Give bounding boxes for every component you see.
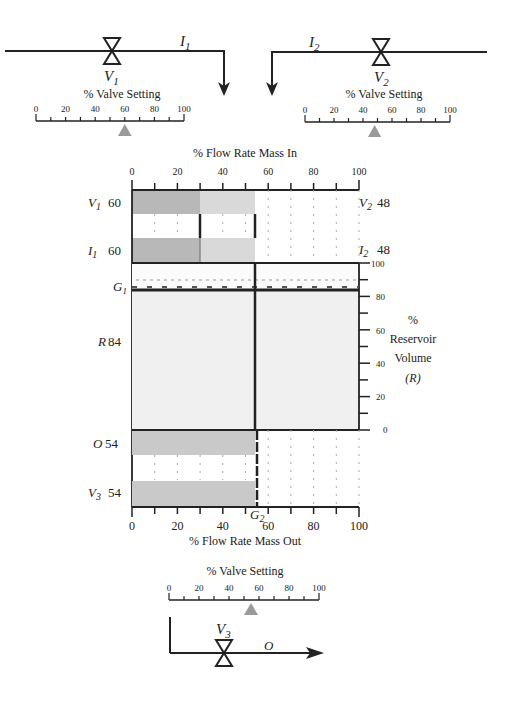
svg-text:80: 80 — [376, 292, 386, 302]
valve-pointer-v1-icon[interactable] — [118, 124, 132, 136]
svg-text:80: 80 — [308, 519, 320, 533]
svg-text:60: 60 — [388, 105, 398, 115]
svg-text:100: 100 — [177, 104, 191, 114]
svg-text:100: 100 — [312, 583, 326, 593]
valve-label-v2: V2 — [374, 69, 389, 88]
row-label-g2: G2 — [250, 507, 264, 524]
flow-label-i1: I1 — [179, 33, 191, 52]
svg-text:40: 40 — [218, 166, 228, 177]
svg-text:80: 80 — [309, 166, 319, 177]
row-label-o: O — [93, 436, 103, 451]
svg-text:40: 40 — [225, 583, 235, 593]
svg-text:0: 0 — [129, 519, 135, 533]
row-value-r: 84 — [108, 334, 122, 349]
svg-text:20: 20 — [330, 105, 340, 115]
svg-text:20: 20 — [171, 519, 183, 533]
valve-scale-v2: 020 4060 80100 — [303, 105, 458, 137]
svg-text:80: 80 — [285, 583, 295, 593]
row-label-i2: I2 — [358, 242, 368, 259]
svg-text:20: 20 — [61, 104, 71, 114]
row-value-i1: 60 — [108, 243, 121, 258]
flow-label-i2: I2 — [308, 34, 320, 53]
svg-text:Reservoir: Reservoir — [390, 332, 437, 346]
bar-i2 — [200, 238, 255, 262]
svg-text:Volume: Volume — [394, 351, 431, 365]
svg-text:40: 40 — [376, 359, 386, 369]
bar-i1 — [132, 238, 200, 262]
row-label-v3: V3 — [88, 485, 101, 502]
svg-text:60: 60 — [376, 326, 386, 336]
svg-text:20: 20 — [376, 392, 386, 402]
right-inlet: I2 V2 % Valve Setting 020 4060 80100 — [266, 34, 487, 137]
svg-text:%: % — [408, 313, 418, 327]
reservoir-axis: 100 80 60 40 20 0 % Reservoir Volume (R) — [359, 259, 436, 435]
svg-text:60: 60 — [255, 583, 265, 593]
valve-pointer-v3-icon[interactable] — [244, 603, 258, 615]
reservoir-axis-title: % Reservoir Volume (R) — [390, 313, 437, 385]
valve-scale-title-v2: % Valve Setting — [345, 87, 422, 101]
valve-label-v1: V1 — [104, 68, 119, 87]
svg-text:60: 60 — [120, 104, 130, 114]
row-label-g1: G1 — [113, 279, 127, 296]
bar-v2 — [200, 191, 255, 214]
row-value-v1: 60 — [108, 195, 121, 210]
top-axis: 020 4060 80100 — [130, 166, 367, 190]
main-chart: % Flow Rate Mass In 020 4060 80100 — [87, 146, 436, 548]
svg-text:20: 20 — [172, 166, 182, 177]
row-value-i2: 48 — [377, 242, 390, 257]
valve-label-v3: V3 — [216, 621, 231, 640]
outlet: % Valve Setting 020 4060 80100 — [167, 564, 327, 666]
svg-text:40: 40 — [359, 105, 369, 115]
bottom-axis-title: % Flow Rate Mass Out — [189, 534, 302, 548]
top-axis-title: % Flow Rate Mass In — [193, 146, 297, 160]
valve-pointer-v2-icon[interactable] — [368, 125, 381, 137]
bottom-axis: 020 4060 80100 — [129, 507, 368, 533]
row-label-v1: V1 — [88, 195, 101, 212]
reservoir-display: I1 V1 % Valve Setting 020 4060 80100 — [0, 0, 515, 701]
reservoir-fill — [132, 290, 359, 430]
valve-scale-title-v1: % Valve Setting — [83, 87, 160, 101]
svg-text:100: 100 — [443, 105, 457, 115]
bar-v3 — [132, 481, 255, 506]
valve-scale-v3: 020 4060 80100 — [167, 583, 327, 615]
svg-text:0: 0 — [383, 425, 388, 435]
flow-label-o: O — [264, 638, 274, 653]
left-inlet: I1 V1 % Valve Setting 020 4060 80100 — [5, 33, 230, 136]
svg-text:60: 60 — [263, 166, 273, 177]
svg-text:0: 0 — [167, 583, 172, 593]
svg-text:80: 80 — [150, 104, 160, 114]
svg-text:20: 20 — [195, 583, 205, 593]
svg-text:0: 0 — [34, 104, 39, 114]
row-label-i1: I1 — [87, 243, 97, 260]
row-value-o: 54 — [105, 436, 119, 451]
svg-text:80: 80 — [417, 105, 427, 115]
valve-scale-title-v3: % Valve Setting — [206, 564, 283, 578]
row-value-v2: 48 — [377, 195, 390, 210]
row-label-r: R — [97, 334, 106, 349]
row-label-v2: V2 — [359, 195, 372, 212]
bar-o — [132, 431, 255, 455]
svg-text:40: 40 — [91, 104, 101, 114]
svg-text:0: 0 — [303, 105, 308, 115]
row-value-v3: 54 — [108, 485, 122, 500]
valve-scale-v1: 020 4060 80100 — [34, 104, 192, 136]
svg-text:40: 40 — [217, 519, 229, 533]
svg-text:(R): (R) — [405, 371, 420, 385]
svg-text:100: 100 — [371, 259, 385, 269]
bar-v1 — [132, 191, 200, 214]
svg-text:0: 0 — [130, 166, 135, 177]
svg-text:100: 100 — [352, 166, 367, 177]
svg-text:100: 100 — [350, 519, 368, 533]
